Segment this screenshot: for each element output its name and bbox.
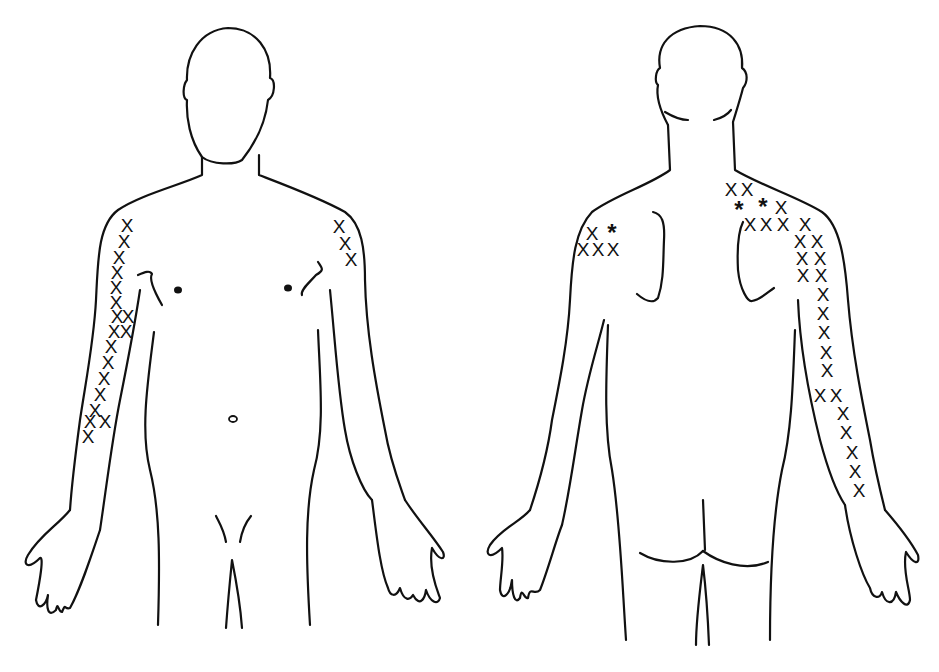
- pain-x-marker: X: [817, 285, 830, 304]
- front-groin-left: [216, 516, 226, 542]
- front-pec-left: [138, 272, 162, 305]
- back-head-base-left: [665, 112, 688, 120]
- front-navel: [229, 416, 237, 422]
- front-nipple-right: [284, 285, 292, 292]
- pain-x-marker: X: [760, 215, 773, 234]
- pain-x-marker: X: [815, 266, 828, 285]
- pain-x-marker: X: [853, 481, 866, 500]
- pain-x-marker: X: [577, 240, 590, 259]
- pain-x-marker: X: [592, 240, 605, 259]
- pain-x-marker: X: [817, 304, 830, 323]
- pain-x-marker: X: [744, 215, 757, 234]
- back-head-base-right: [714, 110, 731, 120]
- pain-x-marker: X: [345, 250, 358, 269]
- front-neck-left: [70, 157, 202, 510]
- back-head: [656, 26, 747, 125]
- front-torso-left: [145, 332, 159, 625]
- back-scapula-left: [637, 212, 664, 301]
- pain-x-marker: X: [840, 423, 853, 442]
- pain-x-marker: X: [120, 322, 133, 341]
- body-outlines: [0, 0, 939, 672]
- pain-x-marker: X: [849, 462, 862, 481]
- pain-x-marker: X: [818, 323, 831, 342]
- pain-x-marker: X: [607, 240, 620, 259]
- front-inner-arm-right: [330, 290, 372, 500]
- back-torso-left: [606, 325, 626, 640]
- pain-x-marker: X: [797, 266, 810, 285]
- front-hand-right: [372, 500, 444, 602]
- front-head: [184, 28, 274, 163]
- back-torso-right: [770, 330, 795, 640]
- pain-x-marker: X: [814, 386, 827, 405]
- front-groin-right: [240, 516, 251, 542]
- back-legs-split: [696, 565, 709, 645]
- back-buttock-left: [640, 551, 703, 562]
- pain-x-marker: X: [846, 443, 859, 462]
- front-neck-right: [259, 155, 405, 500]
- back-figure: [488, 26, 919, 645]
- back-hand-right: [845, 505, 918, 605]
- back-spine: [703, 500, 705, 550]
- pain-x-marker: X: [777, 215, 790, 234]
- pain-x-marker: X: [82, 427, 95, 446]
- pain-x-marker: X: [837, 404, 850, 423]
- front-legs-split: [226, 560, 242, 628]
- body-pain-diagram: XXXXXXXXXXXXXXXXXXXXXX*XXXXX**XXXXXXXXXX…: [0, 0, 939, 672]
- front-hand-left: [26, 510, 100, 613]
- pain-x-marker: X: [99, 412, 112, 431]
- back-inner-arm-left: [562, 320, 604, 525]
- front-figure: [26, 28, 444, 628]
- back-neck-right: [733, 122, 885, 510]
- front-nipple-left: [174, 287, 182, 294]
- pain-star-marker: *: [734, 198, 743, 222]
- back-neck-left: [530, 125, 670, 510]
- back-buttock-right: [703, 551, 768, 566]
- front-pec-right: [302, 262, 322, 295]
- back-hand-left: [488, 510, 562, 600]
- pain-x-marker: X: [821, 361, 834, 380]
- front-torso-right: [307, 330, 321, 625]
